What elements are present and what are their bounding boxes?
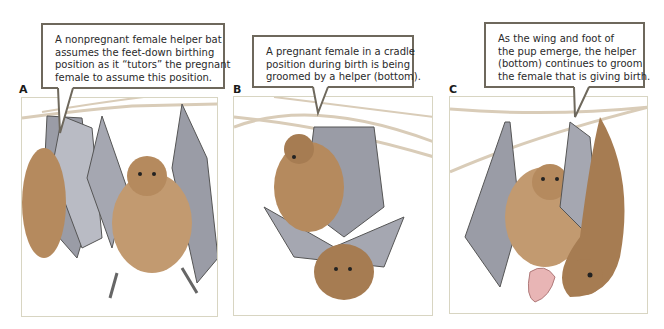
panel-b-label: B: [233, 83, 241, 96]
panel-b-illustration: [234, 97, 433, 316]
panel-c: [449, 96, 648, 314]
callout-a-line-4: female to assume this position.: [55, 72, 211, 85]
callout-c: As the wing and foot of the pup emerge, …: [484, 22, 645, 88]
panel-c-label: C: [449, 83, 457, 96]
callout-c-line-2: the pup emerge, the helper: [498, 46, 631, 59]
callout-b-line-2: position during birth is being: [266, 59, 400, 72]
panel-c-illustration: [450, 97, 648, 314]
callout-c-line-3: (bottom) continues to groom: [498, 58, 631, 71]
callout-a-line-1: A nonpregnant female helper bat: [55, 34, 211, 47]
callout-a-line-3: position as it “tutors” the pregnant: [55, 59, 211, 72]
callout-c-line-1: As the wing and foot of: [498, 33, 631, 46]
callout-b: A pregnant female in a cradle position d…: [252, 35, 414, 88]
callout-b-line-3: groomed by a helper (bottom).: [266, 71, 400, 84]
callout-a-line-2: assumes the feet-down birthing: [55, 47, 211, 60]
callout-c-line-4: the female that is giving birth.: [498, 71, 631, 84]
callout-a: A nonpregnant female helper bat assumes …: [41, 23, 225, 89]
panel-b: [233, 96, 433, 316]
panel-a-illustration: [22, 98, 218, 317]
panel-a-label: A: [19, 83, 28, 96]
panel-a: [21, 97, 218, 317]
callout-b-line-1: A pregnant female in a cradle: [266, 46, 400, 59]
